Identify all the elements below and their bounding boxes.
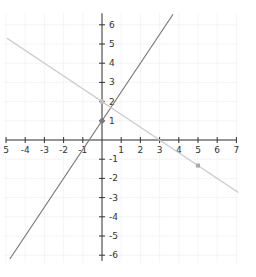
y-tick-label: -1 bbox=[109, 154, 118, 164]
x-tick-label: 6 bbox=[214, 145, 220, 155]
x-tick-label: 1 bbox=[118, 145, 124, 155]
plot-line-line-2 bbox=[7, 38, 238, 192]
coordinate-plane: 5-4-3-2-11234567654321-1-2-3-4-5-6 bbox=[0, 0, 256, 277]
x-tick-label: -4 bbox=[21, 145, 30, 155]
y-tick-label: 5 bbox=[109, 39, 115, 49]
data-point bbox=[196, 164, 200, 168]
data-point bbox=[100, 118, 105, 123]
y-tick-label: 3 bbox=[109, 77, 115, 87]
y-tick-label: -5 bbox=[109, 231, 118, 241]
y-tick-label: -4 bbox=[109, 212, 118, 222]
y-tick-label: -2 bbox=[109, 173, 118, 183]
y-tick-label: -3 bbox=[109, 193, 118, 203]
x-tick-label: 5 bbox=[195, 145, 201, 155]
x-tick-label: 5 bbox=[3, 145, 9, 155]
x-tick-label: 3 bbox=[157, 145, 163, 155]
y-tick-label: 6 bbox=[109, 20, 115, 30]
plot-line-line-1 bbox=[10, 14, 173, 259]
x-tick-label: -2 bbox=[59, 145, 68, 155]
x-tick-label: 2 bbox=[138, 145, 144, 155]
y-tick-label: 1 bbox=[109, 116, 115, 126]
data-point bbox=[100, 99, 105, 104]
y-tick-label: 4 bbox=[109, 58, 115, 68]
x-tick-label: -3 bbox=[40, 145, 49, 155]
y-tick-label: -6 bbox=[109, 250, 118, 260]
x-tick-label: 7 bbox=[234, 145, 240, 155]
graph-svg: 5-4-3-2-11234567654321-1-2-3-4-5-6 bbox=[0, 0, 256, 277]
